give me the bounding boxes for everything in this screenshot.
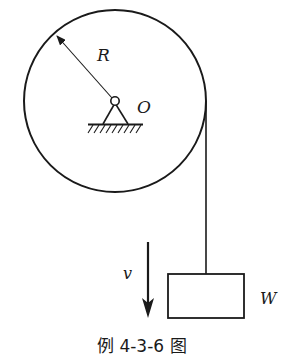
pulley-diagram: R O W v 例 4-3-6 图 <box>0 0 287 358</box>
center-label: O <box>137 97 151 117</box>
fixed-support <box>88 103 143 133</box>
figure-caption: 例 4-3-6 图 <box>97 336 187 356</box>
velocity-label: v <box>123 264 132 283</box>
weight-block <box>168 274 244 318</box>
pin-joint <box>111 97 119 105</box>
ground-hatching <box>88 125 141 133</box>
radius-label: R <box>96 45 110 65</box>
velocity-arrow <box>142 242 154 318</box>
weight-label: W <box>260 289 278 308</box>
